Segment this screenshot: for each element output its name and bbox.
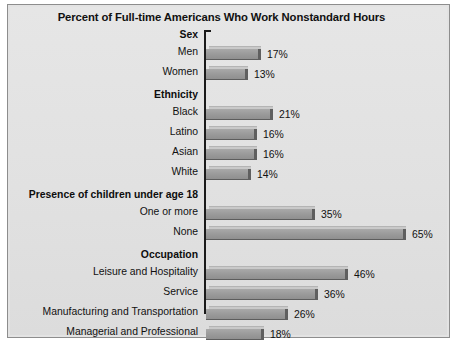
bar-value-label: 13% [254,68,275,82]
category-label: None [0,225,198,239]
chart-title: Percent of Full-time Americans Who Work … [0,11,443,23]
group-header-label: Ethnicity [0,88,198,102]
bar-front-face [206,309,285,320]
bar [206,66,248,81]
bar [206,126,257,141]
bar-row: Leisure and Hospitality46% [0,263,443,283]
category-label: One or more [0,205,198,219]
bar-value-label: 26% [294,308,315,322]
bar [206,106,273,121]
bar [206,46,261,61]
bar [206,166,251,181]
bar-value-label: 46% [354,268,375,282]
bar-front-face [206,129,254,140]
bar-row: Latino16% [0,123,443,143]
bar-side-face [315,289,318,300]
group-header-label: Sex [0,28,198,42]
bar-front-face [206,209,312,220]
bar-front-face [206,329,261,340]
category-label: Black [0,105,198,119]
bar-value-label: 21% [279,108,300,122]
bar-front-face [206,169,248,180]
plot-area: SexMen17%Women13%EthnicityBlack21%Latino… [0,26,443,331]
bar-side-face [245,69,248,80]
category-label: White [0,165,198,179]
bar-front-face [206,289,315,300]
bar-row: Men17% [0,43,443,63]
bar [206,326,264,341]
bar-row: One or more35% [0,203,443,223]
bar-side-face [403,229,406,240]
bar-row: Asian16% [0,143,443,163]
bar-side-face [248,169,251,180]
bar-row: Manufacturing and Transportation26% [0,303,443,323]
bar-front-face [206,229,403,240]
bar-side-face [258,49,261,60]
bar-side-face [270,109,273,120]
bar-front-face [206,69,245,80]
bar-side-face [285,309,288,320]
bar-front-face [206,109,270,120]
bar [206,146,257,161]
bar-row: Women13% [0,63,443,83]
category-label: Men [0,45,198,59]
group-header-label: Occupation [0,248,198,262]
bar-value-label: 36% [324,288,345,302]
bar-side-face [254,149,257,160]
bar [206,226,406,241]
category-label: Leisure and Hospitality [0,265,198,279]
chart-figure: Percent of Full-time Americans Who Work … [0,0,459,346]
category-label: Asian [0,145,198,159]
group-header-label: Presence of children under age 18 [0,188,198,202]
bar [206,286,318,301]
category-label: Managerial and Professional [0,325,198,339]
bar-side-face [312,209,315,220]
category-label: Service [0,285,198,299]
bar-value-label: 65% [412,228,433,242]
category-label: Manufacturing and Transportation [0,305,198,319]
bar-value-label: 18% [270,328,291,342]
bar-value-label: 14% [257,168,278,182]
bar-front-face [206,149,254,160]
bar-row: Black21% [0,103,443,123]
bar-value-label: 35% [321,208,342,222]
bar-front-face [206,49,258,60]
bar-side-face [254,129,257,140]
bar [206,306,288,321]
bar-row: None65% [0,223,443,243]
bar-side-face [345,269,348,280]
bar-value-label: 16% [263,128,284,142]
bar-row: Service36% [0,283,443,303]
bar [206,266,348,281]
category-label: Latino [0,125,198,139]
bar-row: White14% [0,163,443,183]
bar-side-face [261,329,264,340]
category-label: Women [0,65,198,79]
bar [206,206,315,221]
bar-value-label: 16% [263,148,284,162]
bar-value-label: 17% [267,48,288,62]
bar-front-face [206,269,345,280]
bar-row: Managerial and Professional18% [0,323,443,343]
